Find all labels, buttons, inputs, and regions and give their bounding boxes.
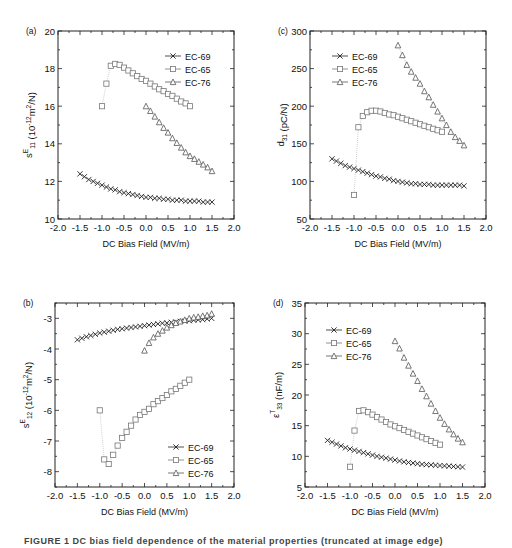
square-marker-icon — [111, 452, 116, 457]
x-tick-label: 2.0 — [227, 490, 240, 501]
legend-label: EC-69 — [352, 52, 378, 62]
y-tick-label: 10 — [44, 214, 55, 225]
x-marker-icon — [448, 183, 453, 188]
square-marker-icon — [124, 429, 129, 434]
triangle-marker-icon — [415, 378, 421, 384]
x-tick-label: -1.0 — [92, 490, 108, 501]
legend-label: EC-69 — [188, 443, 214, 453]
x-marker-icon — [370, 453, 375, 458]
series-ec-69 — [329, 156, 466, 188]
triangle-marker-icon — [448, 129, 454, 135]
triangle-marker-icon — [437, 415, 443, 421]
x-marker-icon — [329, 440, 334, 445]
series-ec-76 — [395, 42, 467, 148]
square-marker-icon — [97, 408, 102, 413]
x-marker-icon — [106, 329, 111, 334]
x-marker-icon — [461, 183, 466, 188]
x-marker-icon — [383, 456, 388, 461]
x-tick-label: 1.0 — [183, 490, 196, 501]
x-tick-label: 0.5 — [161, 222, 174, 233]
x-marker-icon — [152, 196, 157, 201]
x-tick-label: -0.5 — [116, 222, 132, 233]
legend: EC-69EC-65EC-76 — [165, 52, 211, 88]
x-marker-icon — [91, 179, 96, 184]
legend-label: EC-76 — [185, 78, 211, 88]
triangle-marker-icon — [408, 69, 414, 75]
x-tick-label: 0.5 — [413, 222, 426, 233]
x-marker-icon — [139, 194, 144, 199]
triangle-marker-icon — [142, 348, 148, 354]
y-tick-label: 50 — [296, 214, 307, 225]
x-marker-icon — [453, 183, 458, 188]
square-marker-icon — [120, 435, 125, 440]
triangle-marker-icon — [433, 408, 439, 414]
triangle-marker-icon — [156, 119, 162, 125]
triangle-marker-icon — [413, 75, 419, 81]
x-axis-label: DC Bias Field (MV/m) — [101, 507, 188, 517]
square-marker-icon — [187, 377, 192, 382]
x-tick-label: -1.5 — [324, 222, 340, 233]
x-marker-icon — [192, 199, 197, 204]
x-marker-icon — [93, 332, 98, 337]
y-tick-label: 5 — [297, 482, 302, 493]
triangle-marker-icon — [428, 401, 434, 407]
legend-label: EC-76 — [188, 469, 214, 479]
triangle-marker-icon — [392, 338, 398, 344]
legend-label: EC-76 — [352, 78, 378, 88]
triangle-marker-icon — [209, 311, 215, 317]
legend-label: EC-65 — [188, 456, 214, 466]
x-tick-label: 2.0 — [479, 222, 492, 233]
x-marker-icon — [347, 165, 352, 170]
triangle-marker-icon — [395, 42, 401, 48]
square-marker-icon — [439, 129, 444, 134]
y-tick-label: -3 — [44, 313, 52, 324]
x-marker-icon — [374, 454, 379, 459]
legend-label: EC-69 — [185, 52, 211, 62]
legend-label: EC-65 — [352, 65, 378, 75]
y-axis-label: sE11 (10-12m2/N) — [22, 92, 37, 158]
series-ec-69 — [325, 438, 465, 470]
triangle-marker-icon — [417, 81, 423, 87]
triangle-marker-icon — [401, 355, 407, 361]
x-marker-icon — [108, 186, 113, 191]
square-marker-icon — [99, 104, 104, 109]
x-marker-icon — [126, 191, 131, 196]
x-tick-label: 1.5 — [456, 490, 469, 501]
x-marker-icon — [121, 190, 126, 195]
triangle-marker-icon — [422, 88, 428, 94]
triangle-marker-icon — [419, 386, 425, 392]
triangle-marker-icon — [406, 363, 412, 369]
x-axis-label: DC Bias Field (MV/m) — [354, 239, 441, 249]
x-marker-icon — [379, 455, 384, 460]
series-line — [100, 380, 190, 464]
y-tick-label: 15 — [291, 420, 302, 431]
panel-label: (a) — [26, 26, 37, 36]
triangle-marker-icon — [143, 103, 149, 109]
x-tick-label: 0.0 — [138, 490, 151, 501]
x-tick-label: -1.0 — [94, 222, 110, 233]
square-marker-icon — [347, 464, 352, 469]
triangle-marker-icon — [410, 371, 416, 377]
x-marker-icon — [117, 189, 122, 194]
square-marker-icon — [352, 428, 357, 433]
x-marker-icon — [88, 333, 93, 338]
x-marker-icon — [196, 199, 201, 204]
y-axis-label: sE12 (10-12m2/N) — [19, 362, 34, 428]
x-tick-label: -0.5 — [368, 222, 384, 233]
x-tick-label: -0.5 — [364, 490, 380, 501]
legend-square-icon — [337, 66, 342, 71]
x-marker-icon — [77, 171, 82, 176]
x-tick-label: 0.0 — [391, 222, 404, 233]
x-marker-icon — [365, 451, 370, 456]
x-marker-icon — [95, 181, 100, 186]
y-tick-label: 30 — [291, 328, 302, 339]
figure: -2.0-1.5-1.0-0.50.00.51.01.52.0101214161… — [0, 0, 512, 548]
figure-caption: FIGURE 1 DC bias field dependence of the… — [24, 536, 494, 546]
y-tick-label: 35 — [291, 298, 302, 309]
x-marker-icon — [99, 183, 104, 188]
x-tick-label: 0.0 — [139, 222, 152, 233]
series-ec-76 — [143, 103, 215, 173]
x-tick-label: 1.5 — [205, 222, 218, 233]
x-marker-icon — [325, 438, 330, 443]
x-marker-icon — [135, 193, 140, 198]
